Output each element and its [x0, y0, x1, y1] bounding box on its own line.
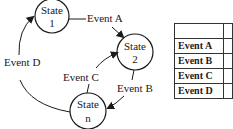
value-cell	[223, 39, 232, 54]
event-table: Event A Event B Event C Event D	[174, 23, 233, 99]
state-n-node: State n	[70, 93, 106, 129]
event-cell: Event D	[175, 84, 224, 99]
state-1-node: State 1	[35, 0, 69, 33]
event-cell: Event B	[175, 54, 224, 69]
svg-text:n: n	[85, 112, 91, 124]
svg-text:State: State	[41, 4, 63, 16]
svg-text:Event A: Event A	[87, 12, 123, 24]
state-2-node: State 2	[117, 34, 153, 70]
value-cell	[223, 54, 232, 69]
value-cell	[223, 69, 232, 84]
table-row: Event C	[175, 69, 233, 84]
transition-event-a: Event A	[69, 12, 123, 37]
table-header-cell	[223, 24, 232, 39]
event-cell: Event C	[175, 69, 224, 84]
transition-event-c: Event C	[63, 53, 117, 93]
event-cell: Event A	[175, 39, 224, 54]
transition-event-b: Event B	[108, 70, 153, 108]
value-cell	[223, 84, 232, 99]
svg-text:1: 1	[49, 17, 55, 29]
svg-text:State: State	[77, 98, 99, 110]
table-row: Event B	[175, 54, 233, 69]
svg-text:State: State	[124, 40, 146, 52]
table-header-cell	[175, 24, 224, 39]
svg-text:Event C: Event C	[63, 71, 99, 83]
svg-text:Event B: Event B	[117, 82, 153, 94]
table-row: Event D	[175, 84, 233, 99]
svg-text:2: 2	[132, 53, 138, 65]
table-header-row	[175, 24, 233, 39]
table-row: Event A	[175, 39, 233, 54]
svg-text:Event D: Event D	[4, 56, 40, 68]
